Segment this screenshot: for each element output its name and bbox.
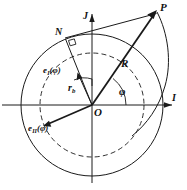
involute-diagram-figure: P N O I J R φ rb eI(φ) eII(φ): [0, 0, 187, 190]
right-angle-marker-at-n: [69, 39, 76, 46]
tangent-line-n-to-p: [65, 14, 157, 39]
basis-vector-e1-label: eI(φ): [43, 66, 61, 76]
axis-j-label: J: [83, 11, 88, 21]
axis-i-arrowhead: [164, 102, 172, 108]
origin-label: O: [94, 107, 102, 118]
base-radius-label: rb: [68, 83, 76, 95]
basis-vector-e1-argument: (φ): [50, 65, 61, 75]
basis-vector-e2-argument: (φ): [37, 123, 48, 133]
basis-vector-e2-label: eII(φ): [28, 124, 48, 134]
point-p-label: P: [160, 2, 167, 13]
basis-vector-e2-shaft: [48, 105, 92, 124]
involute-curve: [132, 12, 168, 136]
angle-phi-label: φ: [119, 86, 125, 97]
radius-vector-r-label: R: [121, 58, 128, 69]
diagram-canvas: [0, 0, 187, 190]
axis-i-label: I: [172, 93, 176, 103]
basis-vector-e1-shaft: [80, 77, 93, 105]
point-n-label: N: [55, 27, 62, 37]
base-radius-subscript: b: [72, 87, 75, 94]
axis-j-arrowhead: [89, 14, 94, 22]
radius-vector-r-arrowhead: [147, 10, 157, 19]
